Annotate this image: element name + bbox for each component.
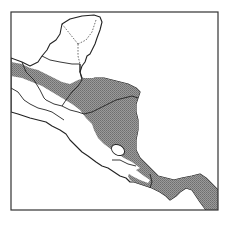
- range-map: [0, 0, 232, 225]
- distribution-range: [11, 62, 218, 210]
